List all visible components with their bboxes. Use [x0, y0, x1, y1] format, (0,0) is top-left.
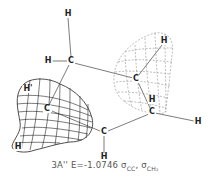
- bonds: [49, 18, 194, 153]
- separator: ,: [135, 160, 138, 170]
- atom-label: C: [132, 75, 140, 83]
- atom-label: H: [64, 10, 73, 18]
- orbital-subscript: CH₂: [147, 165, 159, 172]
- atom-label: H': [22, 85, 33, 93]
- energy-value: E=-1.0746: [71, 160, 118, 170]
- atom-label: C: [100, 128, 108, 136]
- atom-label: H: [14, 143, 23, 151]
- atom-label: H: [148, 96, 157, 104]
- state-label: 3A'': [51, 160, 68, 170]
- atom-label: C: [148, 108, 156, 116]
- figure-caption: 3A'' E=-1.0746 σCC, σCH₂: [0, 160, 210, 172]
- molecular-orbital-figure: H H C C H H C H C H C H' H 3A'' E=-1.074…: [0, 0, 210, 188]
- atom-label: C: [67, 57, 75, 65]
- atom-label: H: [44, 57, 53, 65]
- atom-label: H: [194, 118, 203, 126]
- atom-label: H: [160, 37, 169, 45]
- atom-label: C: [43, 105, 51, 113]
